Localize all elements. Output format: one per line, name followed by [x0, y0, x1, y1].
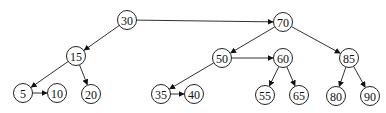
node-label: 90 — [364, 90, 376, 104]
tree-node-30: 30 — [118, 11, 137, 30]
tree-node-90: 90 — [361, 87, 380, 106]
tree-node-35: 35 — [152, 85, 171, 104]
tree-node-5: 5 — [14, 84, 33, 103]
node-label: 40 — [188, 88, 200, 102]
child-edge-85-90 — [354, 66, 366, 87]
child-edge-70-85 — [291, 27, 340, 54]
nodes-layer: 30701550608551020354055658090 — [14, 11, 380, 106]
node-label: 35 — [155, 88, 167, 102]
node-label: 85 — [343, 52, 355, 66]
child-edge-60-65 — [287, 67, 295, 86]
tree-node-55: 55 — [256, 86, 275, 105]
tree-node-65: 65 — [290, 86, 309, 105]
tree-node-85: 85 — [340, 49, 359, 68]
node-label: 60 — [277, 52, 289, 66]
child-edge-15-20 — [79, 65, 87, 85]
node-label: 10 — [51, 87, 63, 101]
tree-node-10: 10 — [48, 84, 67, 103]
tree-canvas: 30701550608551020354055658090 — [0, 0, 386, 113]
node-label: 70 — [277, 16, 289, 30]
tree-node-20: 20 — [82, 85, 101, 104]
child-edge-30-15 — [84, 25, 119, 50]
node-label: 65 — [293, 89, 305, 103]
sibling-link-30-70 — [136, 20, 273, 22]
tree-node-60: 60 — [274, 49, 293, 68]
tree-diagram: 30701550608551020354055658090 — [0, 0, 386, 113]
tree-node-15: 15 — [67, 47, 86, 66]
node-label: 80 — [330, 90, 342, 104]
node-label: 20 — [85, 88, 97, 102]
node-label: 55 — [259, 89, 271, 103]
node-label: 50 — [216, 52, 228, 66]
tree-node-80: 80 — [327, 87, 346, 106]
node-label: 15 — [70, 50, 82, 64]
tree-node-40: 40 — [185, 85, 204, 104]
child-edge-15-5 — [31, 61, 68, 87]
tree-node-50: 50 — [213, 49, 232, 68]
child-edge-60-55 — [269, 67, 278, 86]
node-label: 30 — [121, 14, 133, 28]
node-label: 5 — [20, 87, 26, 101]
child-edge-85-80 — [339, 67, 346, 87]
tree-node-70: 70 — [274, 13, 293, 32]
child-edge-70-50 — [231, 27, 275, 53]
